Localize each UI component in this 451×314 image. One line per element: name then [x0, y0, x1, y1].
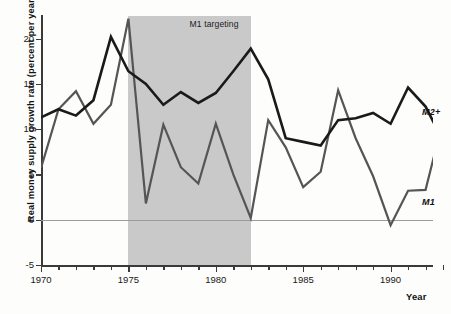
x-tick-major [216, 265, 217, 272]
x-tick-label: 1975 [118, 274, 139, 285]
x-tick-label: 1980 [205, 274, 226, 285]
x-axis-title: Year [406, 291, 427, 302]
x-tick-minor [426, 265, 427, 270]
x-tick-minor [286, 265, 287, 270]
x-tick-minor [251, 265, 252, 270]
x-tick-minor [321, 265, 322, 270]
x-tick-minor [93, 265, 94, 270]
y-tick-label: 10 [23, 123, 34, 134]
x-tick-label: 1970 [30, 274, 51, 285]
x-tick-major [41, 265, 42, 272]
x-tick-minor [198, 265, 199, 270]
x-tick-minor [146, 265, 147, 270]
line-m2plus [41, 37, 433, 146]
x-tick-minor [111, 265, 112, 270]
chart-figure: Real money supply growth rate (percent p… [0, 0, 451, 314]
x-tick-minor [76, 265, 77, 270]
x-tick-minor [233, 265, 234, 270]
y-tick-label: 20 [23, 33, 34, 44]
x-tick-label: 1990 [380, 274, 401, 285]
line-m1 [41, 19, 433, 225]
x-tick-minor [373, 265, 374, 270]
x-tick-minor [58, 265, 59, 270]
y-tick-label: -5 [26, 259, 34, 270]
plot-area: M1 targeting M2+ M1 [41, 16, 433, 265]
y-tick-label: 5 [29, 168, 34, 179]
x-tick-label: 1985 [293, 274, 314, 285]
x-tick-minor [356, 265, 357, 270]
x-tick-major [391, 265, 392, 272]
x-tick-minor [163, 265, 164, 270]
series-label-m1: M1 [422, 197, 435, 207]
series-label-m2plus: M2+ [422, 107, 440, 117]
x-tick-minor [268, 265, 269, 270]
x-tick-major [128, 265, 129, 272]
series-lines [41, 16, 433, 265]
annotation-m1-targeting: M1 targeting [190, 19, 239, 29]
x-tick-minor [408, 265, 409, 270]
y-tick-label: 0 [29, 214, 34, 225]
x-tick-minor [443, 265, 444, 270]
y-tick-label: 15 [23, 78, 34, 89]
x-tick-major [303, 265, 304, 272]
x-tick-minor [338, 265, 339, 270]
x-tick-minor [181, 265, 182, 270]
